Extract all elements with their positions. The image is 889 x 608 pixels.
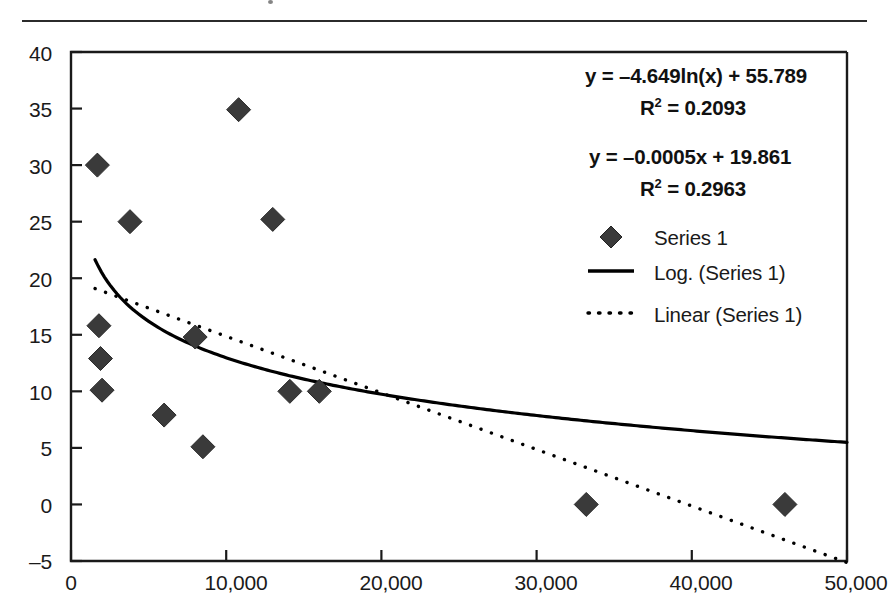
log-equation-annotation: y = –4.649ln(x) + 55.789 bbox=[585, 64, 807, 88]
y-tick-label-40: 40 bbox=[0, 42, 52, 66]
y-axis-ticks bbox=[71, 52, 82, 561]
legend-item-linear-series-1: Linear (Series 1) bbox=[654, 303, 802, 327]
data-point-diamond bbox=[574, 492, 598, 516]
linear-r2-exponent: 2 bbox=[655, 176, 662, 191]
log-trendline-path bbox=[95, 260, 847, 443]
linear-r2-symbol: R bbox=[640, 177, 655, 200]
data-point-diamond bbox=[87, 314, 111, 338]
x-tick-label-30000: 30,000 bbox=[496, 571, 596, 595]
legend-item-series-1: Series 1 bbox=[654, 226, 728, 250]
linear-trendline-path bbox=[95, 289, 847, 563]
y-tick-label-10: 10 bbox=[0, 381, 52, 405]
log-r2-value: = 0.2093 bbox=[662, 96, 746, 119]
data-point-diamond bbox=[90, 378, 114, 402]
x-tick-label-20000: 20,000 bbox=[341, 571, 441, 595]
legend-item-log-series-1: Log. (Series 1) bbox=[654, 261, 785, 285]
y-tick-label-20: 20 bbox=[0, 268, 52, 292]
data-point-diamond bbox=[227, 98, 251, 122]
y-tick-label-35: 35 bbox=[0, 98, 52, 122]
x-tick-label-50000: 50,000 bbox=[806, 571, 889, 595]
data-point-diamond bbox=[118, 210, 142, 234]
y-tick-label-0: 0 bbox=[0, 494, 52, 518]
x-tick-label-10000: 10,000 bbox=[186, 571, 286, 595]
linear-r2-value: = 0.2963 bbox=[662, 177, 746, 200]
data-point-diamond bbox=[152, 403, 176, 427]
y-tick-label-25: 25 bbox=[0, 211, 52, 235]
data-point-diamond bbox=[183, 325, 207, 349]
log-r2-exponent: 2 bbox=[655, 95, 662, 110]
log-r2-annotation: R2 = 0.2093 bbox=[640, 95, 746, 120]
legend-diamond-icon bbox=[600, 226, 622, 248]
y-tick-label-30: 30 bbox=[0, 155, 52, 179]
log-trendline bbox=[95, 260, 847, 443]
y-tick-label-15: 15 bbox=[0, 324, 52, 348]
linear-trendline bbox=[95, 289, 847, 563]
log-r2-symbol: R bbox=[640, 96, 655, 119]
data-point-diamond bbox=[278, 379, 302, 403]
data-point-diamond bbox=[773, 492, 797, 516]
data-point-diamond bbox=[261, 207, 285, 231]
x-axis-ticks bbox=[71, 550, 847, 561]
linear-equation-annotation: y = –0.0005x + 19.861 bbox=[589, 145, 791, 169]
data-point-diamond bbox=[85, 153, 109, 177]
x-tick-label-0: 0 bbox=[41, 571, 101, 595]
data-point-diamond bbox=[88, 347, 112, 371]
x-tick-label-40000: 40,000 bbox=[651, 571, 751, 595]
y-tick-label-5: 5 bbox=[0, 437, 52, 461]
chart-figure: 40 35 30 25 20 15 10 5 0 –5 0 10,000 20,… bbox=[0, 0, 889, 608]
linear-r2-annotation: R2 = 0.2963 bbox=[640, 176, 746, 201]
data-point-diamond bbox=[191, 435, 215, 459]
legend-glyphs bbox=[588, 226, 634, 313]
